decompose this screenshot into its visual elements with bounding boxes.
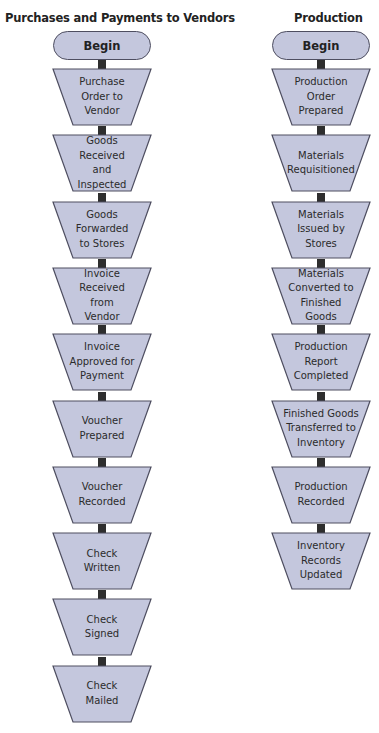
process-step-label: Check Mailed bbox=[52, 665, 152, 723]
begin-terminal-production: Begin bbox=[272, 31, 370, 60]
process-step: Production Recorded bbox=[271, 466, 371, 524]
process-step: Goods Received and Inspected bbox=[52, 134, 152, 192]
process-step: Production Order Prepared bbox=[271, 68, 371, 126]
process-step-label: Production Recorded bbox=[271, 466, 371, 524]
process-step-label: Materials Converted to Finished Goods bbox=[271, 267, 371, 325]
process-step-label: Voucher Recorded bbox=[52, 466, 152, 524]
process-step-label: Production Report Completed bbox=[271, 333, 371, 391]
process-step: Materials Issued by Stores bbox=[271, 201, 371, 259]
process-step: Check Signed bbox=[52, 598, 152, 656]
process-step-label: Production Order Prepared bbox=[271, 68, 371, 126]
process-step-label: Goods Forwarded to Stores bbox=[52, 201, 152, 259]
process-step-label: Materials Issued by Stores bbox=[271, 201, 371, 259]
process-step-label: Check Written bbox=[52, 532, 152, 590]
process-step-label: Finished Goods Transferred to Inventory bbox=[271, 400, 371, 458]
process-step: Invoice Received from Vendor bbox=[52, 267, 152, 325]
process-step: Materials Converted to Finished Goods bbox=[271, 267, 371, 325]
process-step: Production Report Completed bbox=[271, 333, 371, 391]
process-step: Inventory Records Updated bbox=[271, 532, 371, 590]
process-step-label: Goods Received and Inspected bbox=[52, 134, 152, 192]
process-step: Check Written bbox=[52, 532, 152, 590]
begin-terminal-purchases: Begin bbox=[53, 31, 151, 60]
process-step: Goods Forwarded to Stores bbox=[52, 201, 152, 259]
process-step: Voucher Prepared bbox=[52, 400, 152, 458]
process-step: Check Mailed bbox=[52, 665, 152, 723]
process-step: Purchase Order to Vendor bbox=[52, 68, 152, 126]
process-step-label: Purchase Order to Vendor bbox=[52, 68, 152, 126]
column-title-purchases: Purchases and Payments to Vendors bbox=[5, 11, 235, 25]
process-step: Invoice Approved for Payment bbox=[52, 333, 152, 391]
process-step-label: Materials Requisitioned bbox=[271, 134, 371, 192]
process-step: Voucher Recorded bbox=[52, 466, 152, 524]
column-title-production: Production bbox=[294, 11, 363, 25]
process-step: Finished Goods Transferred to Inventory bbox=[271, 400, 371, 458]
process-step-label: Invoice Approved for Payment bbox=[52, 333, 152, 391]
process-step-label: Invoice Received from Vendor bbox=[52, 267, 152, 325]
process-step-label: Check Signed bbox=[52, 598, 152, 656]
process-step-label: Voucher Prepared bbox=[52, 400, 152, 458]
process-step-label: Inventory Records Updated bbox=[271, 532, 371, 590]
process-step: Materials Requisitioned bbox=[271, 134, 371, 192]
